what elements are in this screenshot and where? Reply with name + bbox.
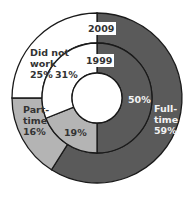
donut-hole xyxy=(72,73,122,123)
label-line: Part- xyxy=(23,104,49,115)
label-outer-part-time: Part- time 16% xyxy=(23,104,49,137)
label-outer-full-time: Full- time 59% xyxy=(154,103,178,136)
ring-label-2009: 2009 xyxy=(86,22,116,35)
label-line: 59% xyxy=(154,125,178,136)
label-inner-part-time: 19% xyxy=(64,127,87,138)
label-line: time xyxy=(154,114,178,125)
ring-label-1999: 1999 xyxy=(84,54,114,67)
label-line: Did not xyxy=(30,47,69,58)
label-inner-did-not-work: 31% xyxy=(55,69,78,80)
label-line: Full- xyxy=(154,103,178,114)
label-line: work xyxy=(30,58,69,69)
label-line: time xyxy=(23,115,49,126)
label-line: 16% xyxy=(23,126,49,137)
label-inner-full-time: 50% xyxy=(128,94,151,105)
